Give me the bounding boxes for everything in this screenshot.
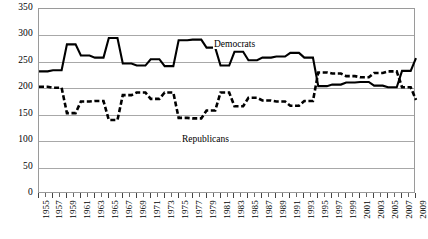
x-axis-tick-label: 1979 (209, 200, 218, 219)
plot-area (38, 8, 415, 193)
x-axis-tick (80, 193, 81, 198)
x-axis-tick (220, 193, 221, 198)
x-axis-tick-label: 2007 (405, 200, 414, 219)
x-axis-tick (164, 193, 165, 198)
x-axis-tick-minor (157, 193, 158, 197)
x-axis-tick (275, 193, 276, 198)
x-axis-tick-minor (254, 193, 255, 197)
x-axis-tick-label: 2005 (391, 200, 400, 219)
x-axis-tick (38, 193, 39, 198)
x-axis-tick (192, 193, 193, 198)
x-axis-tick-minor (199, 193, 200, 197)
x-axis-tick-minor (73, 193, 74, 197)
x-axis-tick-label: 1993 (307, 200, 316, 219)
x-axis-tick-minor (338, 193, 339, 197)
democrats-series-label: Democrats (213, 39, 256, 49)
x-axis-tick (122, 193, 123, 198)
x-axis-tick-label: 1961 (83, 200, 92, 219)
x-axis-tick-label: 1977 (195, 200, 204, 219)
x-axis-tick-minor (115, 193, 116, 197)
y-axis-tick-label: 200 (18, 83, 33, 93)
x-axis-tick-label: 1969 (139, 200, 148, 219)
x-axis-tick-label: 1963 (97, 200, 106, 219)
x-axis-tick-label: 2001 (363, 200, 372, 219)
x-axis-tick (66, 193, 67, 198)
x-axis-tick (387, 193, 388, 198)
x-axis-tick-minor (324, 193, 325, 197)
x-axis: 1955195719591961196319651967196919711973… (38, 193, 415, 239)
x-axis-tick-minor (408, 193, 409, 197)
x-axis-tick-label: 1983 (237, 200, 246, 219)
x-axis-tick (52, 193, 53, 198)
x-axis-tick-label: 1989 (279, 200, 288, 219)
x-axis-tick (289, 193, 290, 198)
republicans-series-line (39, 71, 416, 120)
x-axis-tick (317, 193, 318, 198)
y-axis-tick-label: 250 (18, 56, 33, 66)
x-axis-tick (401, 193, 402, 198)
x-axis-tick-minor (380, 193, 381, 197)
x-axis-tick (359, 193, 360, 198)
x-axis-tick-minor (185, 193, 186, 197)
x-axis-tick-minor (282, 193, 283, 197)
y-axis-tick-label: 300 (18, 30, 33, 40)
y-axis-tick-label: 100 (18, 135, 33, 145)
x-axis-tick (261, 193, 262, 198)
x-axis-tick-label: 1981 (223, 200, 232, 219)
x-axis-tick-minor (171, 193, 172, 197)
x-axis-tick-minor (101, 193, 102, 197)
x-axis-tick-minor (129, 193, 130, 197)
x-axis-tick (303, 193, 304, 198)
x-axis-tick-minor (268, 193, 269, 197)
x-axis-tick-label: 1957 (55, 200, 64, 219)
x-axis-tick-label: 1991 (293, 200, 302, 219)
x-axis-tick (108, 193, 109, 198)
x-axis-tick (373, 193, 374, 198)
x-axis-tick-label: 1975 (181, 200, 190, 219)
x-axis-tick-label: 1959 (69, 200, 78, 219)
x-axis-tick-label: 1999 (349, 200, 358, 219)
republicans-series-label: Republicans (181, 134, 230, 144)
x-axis-tick-minor (45, 193, 46, 197)
x-axis-tick-minor (296, 193, 297, 197)
x-axis-tick-label: 1995 (321, 200, 330, 219)
x-axis-tick (331, 193, 332, 198)
x-axis-tick-label: 2003 (377, 200, 386, 219)
x-axis-tick (94, 193, 95, 198)
y-axis-tick-label: 350 (18, 3, 33, 13)
y-axis: 050100150200250300350 (0, 0, 38, 201)
x-axis-tick-minor (240, 193, 241, 197)
x-axis-tick-minor (143, 193, 144, 197)
x-axis-tick-minor (213, 193, 214, 197)
x-axis-tick-minor (366, 193, 367, 197)
x-axis-tick-label: 1997 (335, 200, 344, 219)
x-axis-tick (415, 193, 416, 198)
x-axis-tick-label: 1973 (167, 200, 176, 219)
x-axis-tick-minor (352, 193, 353, 197)
x-axis-tick-label: 1967 (125, 200, 134, 219)
x-axis-tick (247, 193, 248, 198)
series-lines (39, 9, 416, 194)
x-axis-tick-label: 1971 (153, 200, 162, 219)
y-axis-tick-label: 150 (18, 109, 33, 119)
x-axis-tick (206, 193, 207, 198)
x-axis-tick (345, 193, 346, 198)
x-axis-tick-minor (394, 193, 395, 197)
x-axis-tick (178, 193, 179, 198)
x-axis-tick-label: 1955 (42, 200, 51, 219)
x-axis-tick-minor (87, 193, 88, 197)
x-axis-tick-minor (59, 193, 60, 197)
x-axis-tick-minor (310, 193, 311, 197)
x-axis-tick-label: 1985 (251, 200, 260, 219)
x-axis-tick (150, 193, 151, 198)
x-axis-tick-label: 1965 (111, 200, 120, 219)
x-axis-tick-minor (227, 193, 228, 197)
x-axis-tick (136, 193, 137, 198)
x-axis-tick-label: 2009 (419, 200, 428, 219)
y-axis-tick-label: 0 (28, 188, 33, 198)
x-axis-tick (233, 193, 234, 198)
x-axis-ticks (38, 193, 415, 198)
y-axis-tick-label: 50 (23, 162, 33, 172)
x-axis-tick-label: 1987 (265, 200, 274, 219)
